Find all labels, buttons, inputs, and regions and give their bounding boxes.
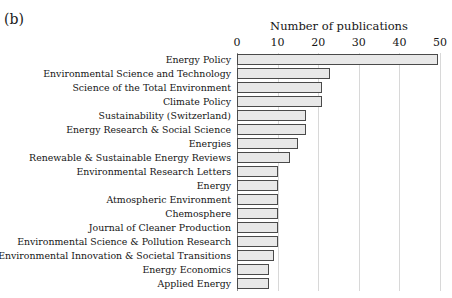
- gridline: [440, 53, 441, 291]
- category-label: Environmental Science and Technology: [43, 67, 231, 81]
- x-tick-label: 20: [311, 36, 325, 49]
- category-label: Environmental Research Letters: [76, 165, 231, 179]
- bar: [237, 222, 278, 232]
- category-label: Atmospheric Environment: [106, 193, 231, 207]
- category-label: Energy: [197, 179, 231, 193]
- bar-row: [237, 137, 440, 151]
- x-tick-label: 0: [234, 36, 241, 49]
- bar-row: [237, 179, 440, 193]
- x-tick-label: 40: [392, 36, 406, 49]
- bar-row: [237, 235, 440, 249]
- bar-row: [237, 95, 440, 109]
- x-tick-label: 10: [271, 36, 285, 49]
- category-label: Energies: [189, 137, 231, 151]
- x-tick-label: 50: [433, 36, 447, 49]
- bar-row: [237, 151, 440, 165]
- bar-row: [237, 249, 440, 263]
- category-label: Energy Research & Social Science: [66, 123, 231, 137]
- bar: [237, 124, 306, 134]
- category-label: Sustainability (Switzerland): [99, 109, 231, 123]
- bar-row: [237, 277, 440, 291]
- category-label: Environmental Innovation & Societal Tran…: [0, 249, 231, 263]
- bar: [237, 194, 278, 204]
- category-label: Applied Energy: [157, 277, 231, 291]
- bar: [237, 138, 298, 148]
- category-label: Renewable & Sustainable Energy Reviews: [29, 151, 231, 165]
- bar: [237, 180, 278, 190]
- category-axis-labels: Energy PolicyEnvironmental Science and T…: [0, 53, 234, 291]
- bar-row: [237, 263, 440, 277]
- x-tick-label: 30: [352, 36, 366, 49]
- bar-row: [237, 67, 440, 81]
- bar-row: [237, 165, 440, 179]
- bar-row: [237, 53, 440, 67]
- bar: [237, 166, 278, 176]
- bar-row: [237, 123, 440, 137]
- plot-area: [237, 53, 440, 291]
- bar: [237, 68, 330, 78]
- bar-series: [237, 53, 440, 291]
- category-label: Climate Policy: [163, 95, 231, 109]
- bar-row: [237, 193, 440, 207]
- bar-row: [237, 207, 440, 221]
- bar: [237, 82, 322, 92]
- category-label: Environmental Science & Pollution Resear…: [17, 235, 231, 249]
- category-label: Energy Economics: [142, 263, 231, 277]
- panel-label: (b): [4, 11, 24, 27]
- category-label: Chemosphere: [165, 207, 231, 221]
- bar-row: [237, 81, 440, 95]
- bar: [237, 54, 438, 64]
- bar: [237, 278, 269, 288]
- bar: [237, 96, 322, 106]
- bar: [237, 250, 274, 260]
- bar: [237, 208, 278, 218]
- category-label: Science of the Total Environment: [72, 81, 231, 95]
- category-label: Energy Policy: [166, 53, 231, 67]
- x-axis-tick-labels: 01020304050: [0, 36, 452, 50]
- bar: [237, 152, 290, 162]
- x-axis-title: Number of publications: [237, 19, 441, 33]
- bar-row: [237, 109, 440, 123]
- category-label: Journal of Cleaner Production: [89, 221, 231, 235]
- bar: [237, 110, 306, 120]
- bar: [237, 264, 269, 274]
- figure-panel-b: (b) Number of publications 01020304050 E…: [0, 0, 452, 298]
- bar: [237, 236, 278, 246]
- bar-row: [237, 221, 440, 235]
